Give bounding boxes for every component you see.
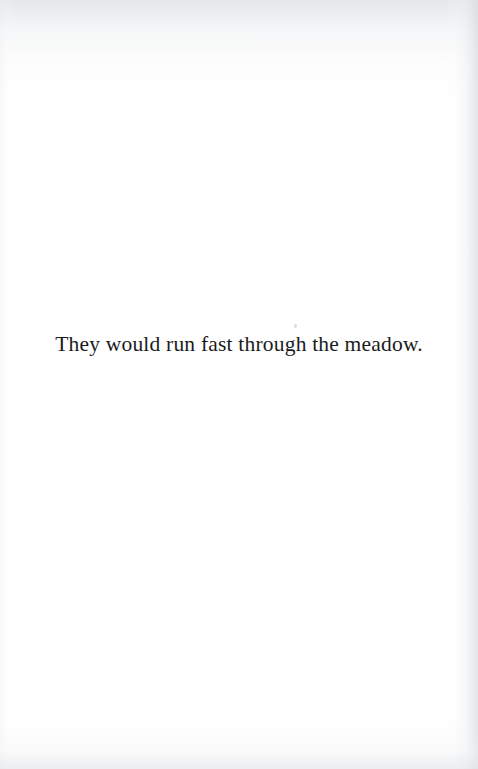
scan-bottom-edge-wash xyxy=(0,723,478,769)
scan-dust-speck xyxy=(294,324,297,328)
page-text-block: They would run fast through the meadow. xyxy=(0,330,478,358)
scan-top-edge-wash xyxy=(0,0,478,105)
scanned-page: They would run fast through the meadow. xyxy=(0,0,478,769)
body-text-line: They would run fast through the meadow. xyxy=(55,330,423,358)
scan-right-edge-shadow xyxy=(444,0,478,769)
scan-left-edge-wash xyxy=(0,0,14,769)
